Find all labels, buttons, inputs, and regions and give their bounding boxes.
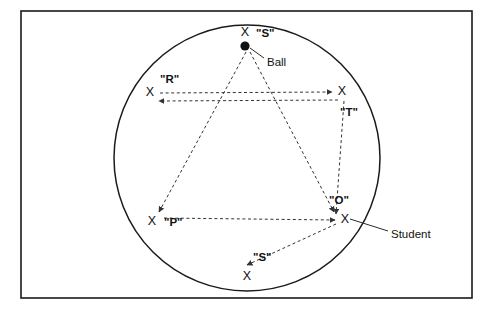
- x-mark-student-o: X: [341, 212, 350, 226]
- label-student-s-bottom: "S": [253, 251, 272, 263]
- diagram-frame: [21, 11, 472, 298]
- label-student-r: "R": [160, 73, 179, 85]
- x-mark-student-p: X: [148, 214, 157, 228]
- label-student-p: "P": [164, 216, 183, 228]
- label-callout-ball: Ball: [267, 56, 286, 68]
- diagram-page: X X X X X X "S" "R" "T" "P" "O" "S" Ball…: [0, 0, 495, 315]
- x-mark-student-s-top: X: [241, 25, 250, 39]
- label-callout-student: Student: [391, 228, 431, 240]
- ball-marker: [240, 41, 249, 50]
- x-mark-student-t: X: [338, 84, 347, 98]
- label-student-o: "O": [329, 194, 349, 206]
- circle-drill-diagram: X X X X X X "S" "R" "T" "P" "O" "S" Ball…: [0, 0, 495, 315]
- label-student-t: "T": [340, 106, 358, 118]
- x-mark-student-r: X: [146, 85, 155, 99]
- label-student-s-top: "S": [256, 27, 275, 39]
- x-mark-student-s-bottom: X: [243, 269, 252, 283]
